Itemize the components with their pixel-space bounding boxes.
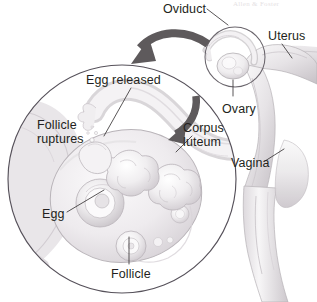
label-oviduct: Oviduct: [163, 3, 206, 16]
magnify-arrow: [131, 33, 208, 64]
label-corpus-luteum-line2: luteum: [183, 135, 221, 149]
label-follicle-ruptures-line1: Follicle: [37, 118, 77, 132]
ovulation-diagram: Allen & Foster Oviduct Uterus Ovary Vagi…: [0, 0, 317, 302]
leader-oviduct: [207, 9, 228, 25]
credit-text: Allen & Foster: [233, 0, 279, 8]
maturing-follicle-structure: [106, 150, 159, 196]
label-follicle: Follicle: [111, 268, 151, 281]
label-follicle-ruptures-line2: ruptures: [37, 132, 84, 146]
follicle-structure: [116, 231, 146, 261]
label-egg-released: Egg released: [86, 74, 161, 87]
label-follicle-ruptures: Follicleruptures: [37, 119, 84, 146]
label-corpus-luteum-line1: Corpus: [183, 121, 224, 135]
label-egg: Egg: [42, 208, 65, 221]
label-uterus: Uterus: [268, 30, 305, 43]
label-corpus-luteum: Corpusluteum: [183, 122, 224, 149]
label-ovary: Ovary: [222, 103, 256, 116]
diagram-artwork: [0, 0, 317, 302]
label-vagina: Vagina: [231, 157, 270, 170]
